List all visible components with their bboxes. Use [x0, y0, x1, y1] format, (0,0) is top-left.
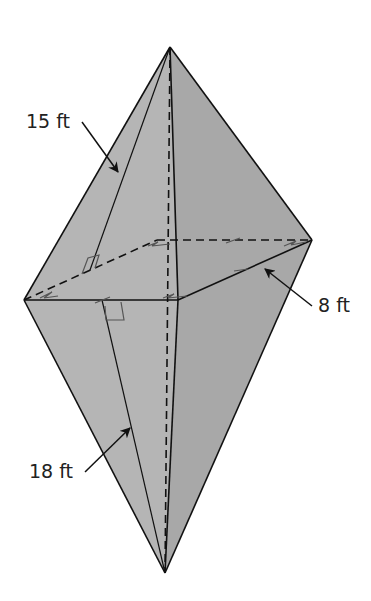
bottom-left-face [24, 300, 178, 573]
double-pyramid-diagram: 15 ft 8 ft 18 ft [0, 0, 371, 601]
top-left-face [24, 47, 178, 300]
label-15ft: 15 ft [26, 110, 70, 132]
label-8ft: 8 ft [318, 294, 350, 316]
label-18ft: 18 ft [29, 460, 73, 482]
